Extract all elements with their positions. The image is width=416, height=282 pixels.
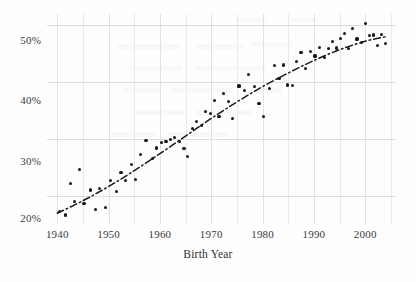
data-point xyxy=(139,153,142,156)
data-point xyxy=(268,87,271,90)
data-point xyxy=(227,100,230,103)
x-axis-title: Birth Year xyxy=(0,248,416,260)
data-point xyxy=(360,41,363,44)
x-tick-label-1970: 1970 xyxy=(200,228,223,240)
data-point xyxy=(291,84,294,87)
data-point xyxy=(282,63,285,66)
data-point xyxy=(313,54,316,57)
data-point xyxy=(331,40,334,43)
x-tick-label-1990: 1990 xyxy=(302,228,325,240)
data-point xyxy=(277,77,280,80)
data-point xyxy=(237,84,240,87)
x-axis-tick-labels: 1940195019601970198019902000 xyxy=(47,228,396,244)
data-point xyxy=(323,56,326,59)
data-point xyxy=(82,202,85,205)
x-tick-label-1950: 1950 xyxy=(97,228,120,240)
data-point xyxy=(262,115,265,118)
data-point xyxy=(78,168,81,171)
x-tick-label-1940: 1940 xyxy=(46,228,69,240)
data-point xyxy=(257,102,260,105)
data-point xyxy=(355,37,358,40)
data-point xyxy=(286,83,289,86)
data-point xyxy=(144,139,147,142)
data-point xyxy=(178,140,181,143)
data-point xyxy=(368,34,371,37)
data-point xyxy=(372,33,375,36)
data-point xyxy=(151,157,154,160)
data-point xyxy=(182,147,185,150)
data-point xyxy=(94,208,97,211)
data-point xyxy=(64,213,67,216)
data-point xyxy=(164,140,167,143)
x-tick-label-1960: 1960 xyxy=(148,228,171,240)
data-point xyxy=(200,124,203,127)
y-tick-label-40: 40% xyxy=(20,94,41,106)
data-point xyxy=(58,210,61,213)
plot-area xyxy=(47,14,396,224)
data-point xyxy=(295,60,298,63)
y-tick-label-50: 50% xyxy=(20,34,41,46)
scatter-plot-figure: 50% 40% 30% 20% 194019501960197019801990… xyxy=(0,0,416,282)
data-point xyxy=(213,99,216,102)
data-point xyxy=(335,46,338,49)
y-tick-label-20: 20% xyxy=(20,212,41,224)
x-tick-label-2000: 2000 xyxy=(354,228,377,240)
data-point xyxy=(299,51,302,54)
data-point xyxy=(89,188,92,191)
data-point xyxy=(309,50,312,53)
y-tick-label-30: 30% xyxy=(20,155,41,167)
data-point xyxy=(217,115,220,118)
y-axis-tick-labels: 50% 40% 30% 20% xyxy=(0,14,41,224)
x-tick-label-1980: 1980 xyxy=(251,228,274,240)
trend-line xyxy=(47,14,396,224)
data-point xyxy=(376,44,379,47)
data-point xyxy=(327,47,330,50)
data-point xyxy=(364,22,367,25)
data-point xyxy=(119,171,122,174)
data-point xyxy=(69,182,72,185)
